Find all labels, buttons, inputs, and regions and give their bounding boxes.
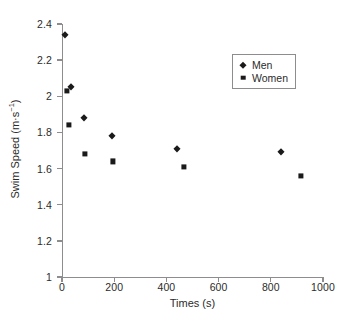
scatter-chart-figure: 11.21.41.61.822.22.4 02004006008001000 S…	[0, 0, 348, 318]
x-axis-tick-label: 400	[157, 281, 175, 293]
legend-label: Women	[252, 72, 288, 84]
y-axis-tick-label: 1.4	[37, 199, 52, 211]
x-axis-title: Times (s)	[62, 297, 323, 309]
y-axis-tick	[57, 59, 62, 60]
data-point-men	[173, 145, 180, 152]
x-axis-tick-label: 600	[210, 281, 228, 293]
data-point-women	[82, 152, 87, 157]
data-point-women	[66, 123, 71, 128]
y-axis-tick-label: 1.2	[37, 235, 52, 247]
legend-item-men: Men	[238, 58, 288, 71]
x-axis-tick	[61, 277, 62, 282]
data-point-men	[81, 114, 88, 121]
y-axis-tick-label: 1	[46, 271, 52, 283]
y-axis-tick-label: 1.6	[37, 163, 52, 175]
y-axis-tick	[57, 240, 62, 241]
legend-label: Men	[252, 59, 272, 71]
x-axis-tick-labels: 02004006008001000	[62, 281, 323, 297]
square-marker-icon	[238, 73, 248, 83]
y-axis-tick	[57, 23, 62, 24]
data-point-women	[110, 159, 115, 164]
y-axis-title-exponent: −1	[7, 103, 16, 112]
data-point-men	[278, 149, 285, 156]
y-axis-line	[62, 24, 63, 277]
x-axis-line	[62, 277, 323, 278]
data-point-women	[65, 88, 70, 93]
legend: MenWomen	[232, 54, 296, 89]
y-axis-tick-label: 1.8	[37, 126, 52, 138]
y-axis-tick-label: 2.2	[37, 54, 52, 66]
y-axis-tick	[57, 132, 62, 133]
x-axis-tick-label: 0	[59, 281, 65, 293]
y-axis-tick	[57, 204, 62, 205]
x-axis-tick	[270, 277, 271, 282]
x-axis-tick-label: 1000	[311, 281, 335, 293]
data-point-men	[108, 132, 115, 139]
data-point-women	[182, 164, 187, 169]
y-axis-tick-label: 2.4	[37, 18, 52, 30]
y-axis-tick-label: 2	[46, 90, 52, 102]
data-point-women	[298, 173, 303, 178]
x-axis-tick	[322, 277, 323, 282]
legend-item-women: Women	[238, 71, 288, 84]
y-axis-title: Swim Speed (m·s−1)	[9, 23, 21, 276]
x-axis-tick	[218, 277, 219, 282]
x-axis-tick	[114, 277, 115, 282]
x-axis-tick	[166, 277, 167, 282]
x-axis-tick-label: 800	[262, 281, 280, 293]
y-axis-tick	[57, 168, 62, 169]
diamond-marker-icon	[238, 60, 248, 70]
y-axis-tick	[57, 96, 62, 97]
x-axis-tick-label: 200	[105, 281, 123, 293]
